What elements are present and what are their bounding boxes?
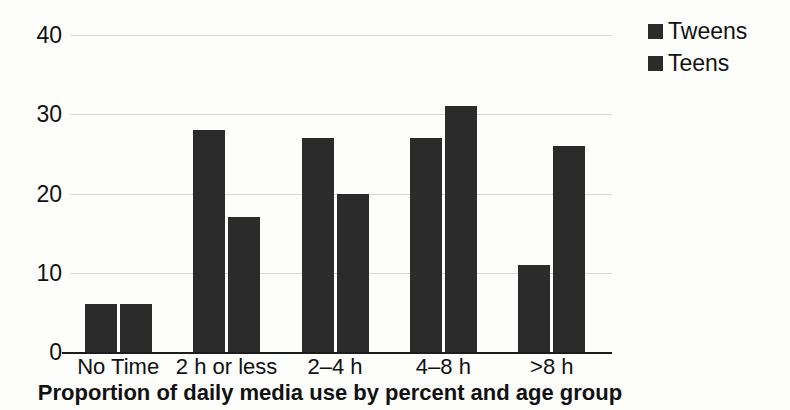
bar: [553, 146, 585, 352]
bar-group: [85, 35, 152, 352]
bar-group: [302, 35, 369, 352]
y-tick-label-30: 30: [4, 103, 62, 126]
legend-item[interactable]: Tweens: [648, 20, 747, 43]
legend-swatch-icon: [648, 24, 663, 39]
bar-group: [193, 35, 260, 352]
legend: TweensTeens: [648, 20, 747, 84]
bar: [193, 130, 225, 352]
y-axis: 403020100: [0, 0, 62, 410]
legend-label: Teens: [668, 52, 729, 75]
bar: [445, 106, 477, 352]
y-tick-label-20: 20: [4, 182, 62, 205]
bar: [120, 304, 152, 352]
bar-group: [518, 35, 585, 352]
x-tick-label: >8 h: [472, 355, 632, 378]
bar: [337, 194, 369, 353]
y-tick-label-40: 40: [4, 24, 62, 47]
bar: [85, 304, 117, 352]
y-tick-label-10: 10: [4, 261, 62, 284]
plot-area: [70, 35, 612, 352]
bar-chart: 403020100 No Time2 h or less2–4 h4–8 h>8…: [0, 0, 790, 410]
bar: [302, 138, 334, 352]
legend-item[interactable]: Teens: [648, 52, 747, 75]
legend-swatch-icon: [648, 56, 663, 71]
bar-group: [410, 35, 477, 352]
legend-label: Tweens: [668, 20, 747, 43]
bar: [410, 138, 442, 352]
bar: [518, 265, 550, 352]
bar: [228, 217, 260, 352]
chart-title: Proportion of daily media use by percent…: [0, 380, 660, 406]
